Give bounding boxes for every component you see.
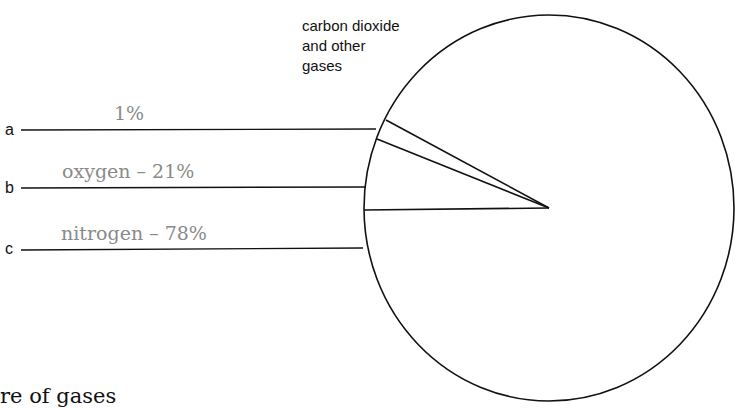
slice-label-nitrogen: nitrogen – 78% [61,224,207,243]
caption-fragment: re of gases [0,386,116,407]
leader-line-b [21,187,366,188]
label-a: a [5,122,14,138]
slice-label-1-percent: 1% [114,104,144,123]
annotation-line-1: carbon dioxide [302,16,400,36]
annotation-line-2: and other [302,36,400,56]
annotation-line-3: gases [302,56,400,76]
annotation-co2: carbon dioxide and other gases [302,16,400,76]
leader-line-a [21,129,376,130]
label-b: b [5,180,14,196]
leader-line-c [21,248,363,250]
label-c: c [5,241,13,257]
slice-label-oxygen: oxygen – 21% [62,162,194,181]
